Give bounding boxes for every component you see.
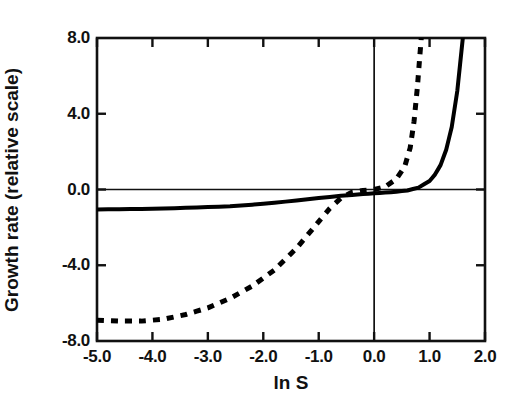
x-tick-label-7: 2.0 bbox=[474, 347, 497, 367]
x-tick-label-6: 1.0 bbox=[418, 347, 441, 367]
dashed-curve bbox=[97, 38, 421, 321]
x-tick-label-3: -2.0 bbox=[249, 347, 277, 367]
solid-curve bbox=[97, 38, 463, 209]
x-tick-label-1: -4.0 bbox=[138, 347, 166, 367]
x-tick-label-0: -5.0 bbox=[83, 347, 111, 367]
zero-reference-lines bbox=[97, 38, 485, 341]
chart-figure: 8.04.00.0-4.0-8.0 -5.0-4.0-3.0-2.0-1.00.… bbox=[0, 0, 521, 405]
x-tick-label-2: -3.0 bbox=[194, 347, 222, 367]
y-tick-label-0: 8.0 bbox=[32, 28, 90, 48]
x-axis-title: ln S bbox=[274, 372, 309, 394]
y-tick-label-3: -4.0 bbox=[32, 255, 90, 275]
data-series-layer bbox=[97, 38, 463, 321]
x-tick-label-5: 0.0 bbox=[363, 347, 386, 367]
x-tick-label-4: -1.0 bbox=[305, 347, 333, 367]
y-axis-title: Growth rate (relative scale) bbox=[1, 68, 23, 312]
y-tick-label-1: 4.0 bbox=[32, 104, 90, 124]
y-tick-label-4: -8.0 bbox=[32, 331, 90, 351]
y-tick-label-2: 0.0 bbox=[32, 180, 90, 200]
